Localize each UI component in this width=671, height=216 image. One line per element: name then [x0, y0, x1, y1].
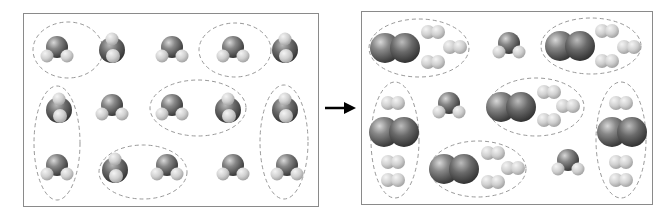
reactant-panel	[24, 14, 319, 207]
reaction-diagram	[0, 0, 671, 216]
product-panel	[362, 12, 653, 205]
reaction-arrow	[325, 102, 356, 114]
